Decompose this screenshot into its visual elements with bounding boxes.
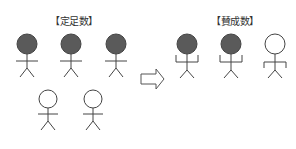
right-arrow-icon [141, 69, 164, 89]
stick-figure-filled [60, 34, 82, 77]
stick-figure-filled-arms-raised [176, 34, 198, 78]
stick-figure-filled [105, 34, 127, 77]
stick-figure-filled [16, 34, 38, 77]
stick-figure-empty-arms-lowered [264, 34, 286, 78]
stick-figure-empty [83, 90, 103, 130]
stick-figure-empty [38, 90, 58, 130]
stick-figure-filled-arms-raised [220, 34, 242, 78]
diagram-canvas [0, 0, 296, 149]
